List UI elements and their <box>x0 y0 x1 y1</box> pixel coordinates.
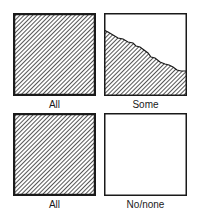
panel-all-bottom: All <box>13 113 96 196</box>
panel-all-top: All <box>13 13 96 96</box>
panel-label: All <box>13 99 96 110</box>
empty-square <box>104 113 187 196</box>
panel-label: No/none <box>104 199 187 210</box>
panel-none: No/none <box>104 113 187 196</box>
panel-some: Some <box>104 13 187 96</box>
panel-label: Some <box>104 99 187 110</box>
panel-label: All <box>13 199 96 210</box>
hatched-square-full <box>13 113 96 196</box>
hatched-square-full <box>13 13 96 96</box>
hatched-square-partial <box>104 13 187 96</box>
